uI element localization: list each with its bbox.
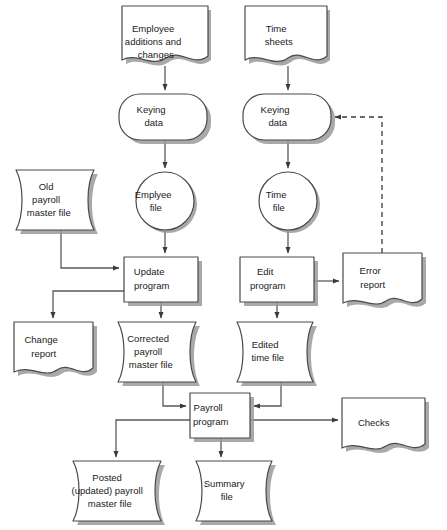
edge-error-report-to-keying-right-feedback bbox=[335, 117, 382, 253]
node-summary-file[interactable]: Summary file bbox=[196, 461, 276, 525]
flowchart-canvas: Employee additions and changes Time shee… bbox=[0, 0, 447, 530]
checks-label: Checks bbox=[358, 417, 408, 428]
node-posted-payroll-master-file[interactable]: Posted (updated) payroll master file bbox=[71, 461, 166, 525]
node-error-report[interactable]: Error report bbox=[343, 253, 426, 308]
node-change-report[interactable]: Change report bbox=[14, 322, 97, 377]
node-time-sheets[interactable]: Time sheets bbox=[245, 6, 330, 65]
node-employee-additions[interactable]: Employee additions and changes bbox=[122, 6, 211, 65]
edge-update-program-to-change-report bbox=[53, 291, 124, 318]
node-employee-file[interactable]: Emplyee file bbox=[135, 172, 197, 233]
time-sheets-shape bbox=[245, 6, 327, 61]
edge-payroll-program-to-posted-payroll-master bbox=[116, 420, 190, 457]
node-keying-data-right[interactable]: Keying data bbox=[243, 94, 335, 144]
node-payroll-program[interactable]: Payroll program bbox=[190, 393, 254, 442]
node-corrected-payroll-master-file[interactable]: Corrected payroll master file bbox=[118, 322, 200, 386]
node-edited-time-file[interactable]: Edited time file bbox=[237, 322, 317, 386]
node-update-program[interactable]: Update program bbox=[124, 257, 202, 306]
node-keying-data-left[interactable]: Keying data bbox=[119, 94, 211, 144]
corrected-payroll-master-file-label: Corrected payroll master file bbox=[127, 333, 192, 370]
flowchart-svg: Employee additions and changes Time shee… bbox=[0, 0, 447, 530]
node-edit-program[interactable]: Edit program bbox=[240, 257, 318, 306]
edge-old-payroll-master-to-update-program bbox=[61, 230, 119, 268]
node-checks[interactable]: Checks bbox=[342, 398, 429, 453]
node-time-file[interactable]: Time file bbox=[259, 172, 320, 233]
node-old-payroll-master-file[interactable]: Old payroll master file bbox=[16, 170, 98, 234]
